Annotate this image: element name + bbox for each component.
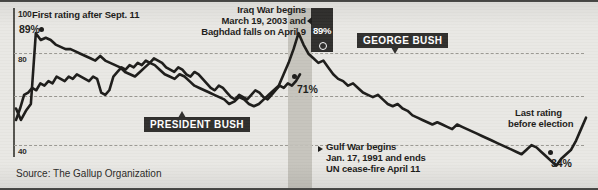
annotation-sept11: First rating after Sept. 11 [32, 10, 139, 21]
annotation-last-rating-line1: Last rating [515, 108, 562, 119]
label-george-bush-text: GEORGE BUSH [363, 35, 442, 46]
label-president-bush: PRESIDENT BUSH [144, 117, 250, 132]
label-george-bush-pointer-icon [391, 47, 399, 54]
annotation-gulf-line3: UN cease-fire April 11 [326, 164, 420, 175]
annotation-gulf-value: 71% [297, 84, 318, 95]
chart-graphic: 100 80 40 First rating after Sept. 11 89… [0, 0, 598, 190]
marker-iraq-peak-point [319, 42, 327, 50]
marker-gulf-peak-point [292, 74, 297, 79]
label-president-bush-pointer-icon [178, 111, 186, 118]
annotation-iraq-arrow-icon [307, 17, 312, 25]
label-president-bush-text: PRESIDENT BUSH [150, 119, 244, 130]
annotation-gulf-arrow-icon [318, 146, 323, 152]
label-george-bush: GEORGE BUSH [357, 33, 448, 48]
annotation-last-value: 34% [551, 158, 572, 169]
series-line-george-bush [16, 33, 586, 166]
annotation-sept11-value: 89% [19, 24, 40, 35]
annotation-iraq-line2: March 19, 2003 and [186, 16, 306, 27]
annotation-iraq-line3: Baghdad falls on April 9 [176, 27, 306, 38]
source-credit: Source: The Gallup Organization [16, 168, 161, 179]
annotation-last-rating-line2: before election [508, 119, 573, 130]
annotation-gulf-line1: Gulf War begins [326, 142, 396, 153]
marker-last-rating-point [548, 150, 553, 155]
marker-sept11-point [39, 27, 44, 32]
annotation-gulf-line2: Jan. 17, 1991 and ends [326, 153, 426, 164]
annotation-iraq-line1: Iraq War begins [200, 5, 306, 16]
